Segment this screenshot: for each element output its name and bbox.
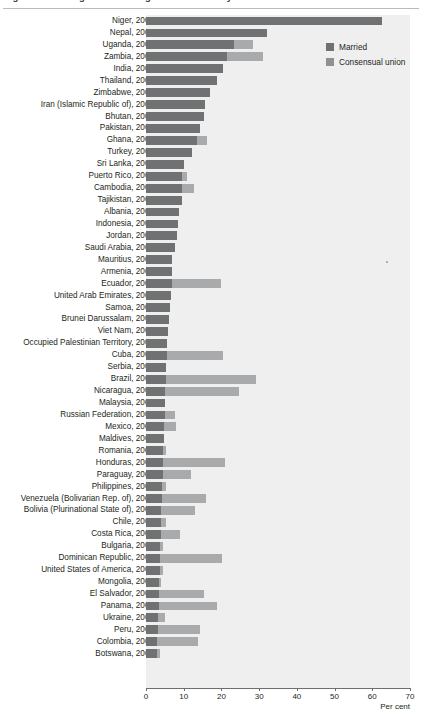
bar-segment-married — [146, 494, 162, 503]
bar-stack — [146, 327, 168, 336]
bar-row-label: Nicaragua, 2005 — [0, 385, 154, 397]
bar-row-label: Paraguay, 2002 — [0, 469, 154, 481]
bar-row-label: Cuba, 2002 — [0, 349, 154, 361]
bar-row-label: Mongolia, 2000 — [0, 576, 154, 588]
legend-swatch-icon-consensual-union — [326, 58, 334, 66]
bar-segment-married — [146, 29, 267, 38]
bar-segment-married — [146, 446, 163, 455]
x-axis-line — [146, 688, 410, 689]
bar-segment-consensual-union — [234, 40, 253, 49]
stacked-bar-chart: Niger, 2001Nepal, 2001Uganda, 2002Zambia… — [0, 12, 422, 713]
bar-row: Turkey, 2000 — [0, 146, 422, 158]
bar-stack — [146, 124, 200, 133]
bar-row-label: Peru, 2007 — [0, 624, 154, 636]
bar-segment-consensual-union — [159, 578, 161, 587]
bar-row-label: Russian Federation, 2002 — [0, 409, 154, 421]
x-axis-tick-label: 60 — [368, 692, 377, 701]
bar-row: Venezuela (Bolivarian Rep. of), 2001 — [0, 493, 422, 505]
bar-row: Bolivia (Plurinational State of), 2001 — [0, 504, 422, 516]
bar-row-label: Honduras, 2001 — [0, 457, 154, 469]
legend-label-consensual-union: Consensual union — [339, 57, 405, 67]
legend-label-married: Married — [339, 42, 367, 52]
bar-row-label: Malaysia, 2000 — [0, 397, 154, 409]
bar-segment-consensual-union — [163, 470, 191, 479]
bar-stack — [146, 387, 239, 396]
bar-stack — [146, 291, 171, 300]
bar-rows-container: Niger, 2001Nepal, 2001Uganda, 2002Zambia… — [0, 15, 422, 688]
bar-row: Colombia, 2005 — [0, 636, 422, 648]
bar-segment-married — [146, 172, 182, 181]
bar-row-label: Maldives, 2006 — [0, 433, 154, 445]
bar-segment-married — [146, 625, 158, 634]
bar-row: Brunei Darussalam, 2001 — [0, 313, 422, 325]
x-axis-tick-label: 50 — [330, 692, 339, 701]
bar-segment-married — [146, 554, 160, 563]
bar-segment-married — [146, 351, 167, 360]
bar-stack — [146, 434, 164, 443]
bar-segment-consensual-union — [161, 530, 181, 539]
bar-row: Bhutan, 2005 — [0, 111, 422, 123]
bar-row: Ecuador, 2001 — [0, 278, 422, 290]
bar-row: Occupied Palestinian Territory, 2007 — [0, 337, 422, 349]
bar-stack — [146, 482, 166, 491]
bar-segment-consensual-union — [162, 494, 206, 503]
bar-segment-consensual-union — [227, 52, 263, 61]
bar-segment-married — [146, 649, 157, 658]
bar-segment-married — [146, 315, 169, 324]
bar-row: Maldives, 2006 — [0, 433, 422, 445]
bar-row-label: Viet Nam, 2008 — [0, 325, 154, 337]
bar-stack — [146, 602, 217, 611]
bar-segment-married — [146, 279, 172, 288]
bar-segment-married — [146, 590, 159, 599]
bar-segment-married — [146, 267, 172, 276]
bar-segment-married — [146, 184, 182, 193]
bar-stack — [146, 52, 263, 61]
x-axis-tick-label: 40 — [292, 692, 301, 701]
bar-row-label: Jordan, 2004 — [0, 230, 154, 242]
bar-row-label: Mauritius, 2000 — [0, 254, 154, 266]
bar-segment-consensual-union — [161, 506, 195, 515]
bar-segment-consensual-union — [159, 602, 217, 611]
bar-segment-married — [146, 243, 175, 252]
bar-row: Peru, 2007 — [0, 624, 422, 636]
bar-segment-married — [146, 518, 161, 527]
bar-stack — [146, 351, 223, 360]
bar-stack — [146, 578, 161, 587]
bar-row: Mauritius, 2000 — [0, 254, 422, 266]
bar-row: Niger, 2001 — [0, 15, 422, 27]
bar-segment-married — [146, 255, 172, 264]
bar-segment-married — [146, 124, 200, 133]
bar-row: Albania, 2001 — [0, 206, 422, 218]
bar-stack — [146, 422, 176, 431]
bar-row-label: Philippines, 2000 — [0, 481, 154, 493]
bar-row: Russian Federation, 2002 — [0, 409, 422, 421]
bar-stack — [146, 29, 267, 38]
bar-row-label: Cambodia, 2004 — [0, 182, 154, 194]
bar-row: Panama, 2000 — [0, 600, 422, 612]
bar-segment-consensual-union — [160, 542, 163, 551]
bar-row: Armenia, 2001 — [0, 266, 422, 278]
bar-stack — [146, 458, 225, 467]
bar-segment-married — [146, 40, 234, 49]
bar-row: Ghana, 2000 — [0, 134, 422, 146]
bar-row: Jordan, 2004 — [0, 230, 422, 242]
bar-row: Indonesia, 2005 — [0, 218, 422, 230]
bar-segment-consensual-union — [165, 411, 175, 420]
bar-stack — [146, 208, 179, 217]
bar-row-label: Puerto Rico, 2000 — [0, 170, 154, 182]
bar-segment-married — [146, 506, 161, 515]
bar-row: El Salvador, 2007 — [0, 588, 422, 600]
x-axis-tick-label: 20 — [217, 692, 226, 701]
bar-row-label: Ghana, 2000 — [0, 134, 154, 146]
bar-segment-consensual-union — [159, 590, 204, 599]
bar-row-label: United States of America, 2000 — [0, 564, 154, 576]
bar-row: Saudi Arabia, 2004 — [0, 242, 422, 254]
bar-stack — [146, 637, 198, 646]
bar-stack — [146, 184, 194, 193]
bar-stack — [146, 446, 166, 455]
page-title: Figure: Percentage of women aged 15-19 c… — [4, 0, 321, 2]
bar-stack — [146, 220, 178, 229]
bar-row-label: Turkey, 2000 — [0, 146, 154, 158]
bar-segment-married — [146, 637, 157, 646]
bar-stack — [146, 100, 205, 109]
